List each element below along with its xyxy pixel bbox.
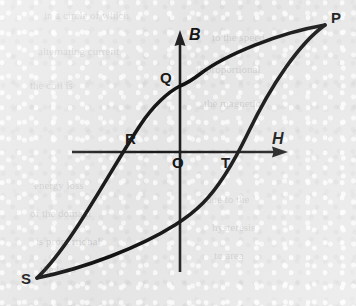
point-label-t: T [221,155,230,170]
point-label-s: S [21,271,31,286]
point-label-q: Q [160,70,172,85]
point-label-layer: PQROTS [0,0,356,306]
figure-canvas: in a circle of whichto the speedalternat… [0,0,356,306]
point-label-r: R [125,131,136,146]
point-label-p: P [331,10,341,25]
point-label-o: O [172,155,184,170]
